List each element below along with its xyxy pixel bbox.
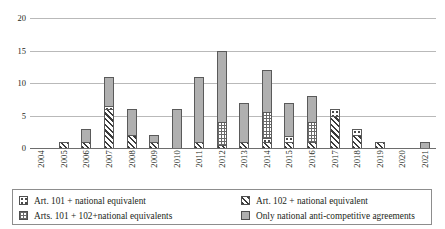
bar-segment-2008-diagonal-hatch (127, 135, 137, 148)
x-axis-tick-2006: 2006 (81, 150, 104, 168)
x-axis-tick-2014: 2014 (262, 150, 285, 168)
bar-2011 (194, 77, 204, 149)
bar-2018 (352, 129, 362, 149)
bar-segment-2014-solid-gray (262, 70, 272, 112)
legend-item-art-101: Art. 101 + national equivalent (19, 196, 241, 206)
x-axis-tick-2018: 2018 (352, 150, 375, 168)
bar-2010 (172, 109, 182, 148)
diagonal-hatch-swatch-icon (241, 196, 250, 205)
bar-2016 (307, 96, 317, 148)
bar-segment-2010-solid-gray (172, 109, 182, 148)
x-axis-tick-2017: 2017 (330, 150, 353, 168)
x-axis-line (30, 148, 436, 149)
x-axis-tick-2016: 2016 (307, 150, 330, 168)
bar-segment-2012-checkered (217, 122, 227, 145)
bar-segment-2013-diagonal-hatch (239, 142, 249, 149)
y-axis-tick-15: 15 (0, 47, 26, 55)
x-axis-tick-2012: 2012 (217, 150, 240, 168)
bar-2009 (149, 135, 159, 148)
solid-gray-swatch-icon (241, 211, 250, 220)
bar-segment-2009-diagonal-hatch (149, 142, 159, 149)
bar-segment-2014-diagonal-hatch (262, 142, 272, 149)
bar-series-container (30, 18, 436, 148)
bar-segment-2008-solid-gray (127, 109, 137, 135)
bar-segment-2005-diagonal-hatch (59, 142, 69, 149)
x-axis-tick-2009: 2009 (149, 150, 172, 168)
legend-label-art-101: Art. 101 + national equivalent (34, 196, 146, 206)
y-axis-tick-5: 5 (0, 112, 26, 120)
legend-item-only-national: Only national anti-competitive agreement… (241, 211, 425, 221)
checkered-swatch-icon (19, 211, 28, 220)
bar-2017 (330, 109, 340, 148)
bar-segment-2015-diagonal-hatch (284, 142, 294, 149)
y-axis-labels: 05101520 (0, 18, 30, 148)
bar-segment-2021-solid-gray (420, 142, 430, 149)
bar-2019 (375, 142, 385, 149)
bar-2008 (127, 109, 137, 148)
legend-label-only-national: Only national anti-competitive agreement… (256, 211, 415, 221)
x-axis-tick-2007: 2007 (104, 150, 127, 168)
plot-area (30, 18, 436, 148)
bar-segment-2016-checkered (307, 122, 317, 142)
chart-root: 05101520 2004200520062007200820092010201… (0, 0, 445, 229)
bar-2006 (81, 129, 91, 149)
bar-segment-2013-solid-gray (239, 103, 249, 142)
x-axis-tick-2021: 2021 (420, 150, 443, 168)
bar-segment-2012-diagonal-hatch (217, 145, 227, 148)
x-axis-tick-2008: 2008 (127, 150, 150, 168)
bar-segment-2017-diagonal-hatch (330, 116, 340, 149)
bar-segment-2016-solid-gray (307, 96, 317, 122)
x-axis-tick-2011: 2011 (194, 150, 217, 168)
bar-2015 (284, 103, 294, 148)
bar-segment-2011-solid-gray (194, 77, 204, 142)
bar-segment-2006-solid-gray (81, 129, 91, 142)
x-axis-tick-2013: 2013 (239, 150, 262, 168)
bar-2013 (239, 103, 249, 149)
bar-2007 (104, 77, 114, 148)
bar-segment-2006-diagonal-hatch (81, 142, 91, 149)
bar-segment-2011-diagonal-hatch (194, 142, 204, 149)
y-axis-tick-10: 10 (0, 79, 26, 87)
legend-label-arts-101-102: Arts. 101 + 102+national equivalents (34, 211, 172, 221)
bar-segment-2015-solid-gray (284, 103, 294, 137)
x-axis-tick-2010: 2010 (172, 150, 195, 168)
bar-segment-2016-diagonal-hatch (307, 142, 317, 149)
bar-2005 (59, 142, 69, 149)
x-axis-tick-2019: 2019 (375, 150, 398, 168)
chart-legend: Art. 101 + national equivalent Art. 102 … (12, 189, 432, 225)
x-axis-tick-2004: 2004 (36, 150, 59, 168)
bar-2021 (420, 142, 430, 149)
dotted-small-square-swatch-icon (19, 196, 28, 205)
bar-segment-2007-diagonal-hatch (104, 109, 114, 148)
legend-label-art-102: Art. 102 + national equivalent (256, 196, 368, 206)
bar-2014 (262, 70, 272, 148)
x-axis-tick-2020: 2020 (397, 150, 420, 168)
y-axis-tick-0: 0 (0, 144, 26, 152)
bar-2012 (217, 51, 227, 149)
bar-segment-2018-diagonal-hatch (352, 135, 362, 148)
y-axis-tick-20: 20 (0, 14, 26, 22)
legend-item-art-102: Art. 102 + national equivalent (241, 196, 425, 206)
x-axis-labels: 2004200520062007200820092010201120122013… (30, 150, 436, 186)
legend-item-arts-101-102: Arts. 101 + 102+national equivalents (19, 211, 241, 221)
legend-row-1: Art. 101 + national equivalent Art. 102 … (19, 193, 425, 208)
bar-segment-2019-diagonal-hatch (375, 142, 385, 149)
legend-row-2: Arts. 101 + 102+national equivalents Onl… (19, 208, 425, 223)
bar-segment-2012-solid-gray (217, 51, 227, 123)
bar-segment-2014-checkered (262, 112, 272, 138)
x-axis-tick-2005: 2005 (59, 150, 82, 168)
bar-segment-2007-solid-gray (104, 77, 114, 107)
x-axis-tick-2015: 2015 (284, 150, 307, 168)
